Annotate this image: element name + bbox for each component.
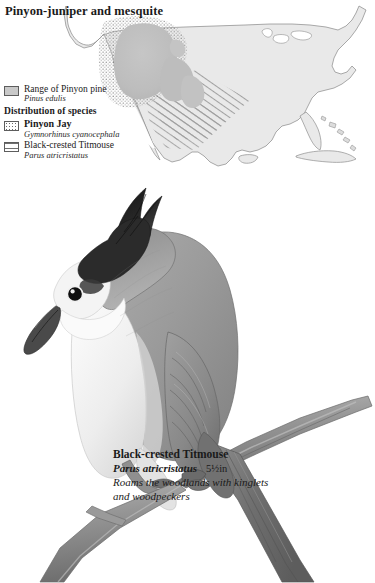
legend-item-pinyon-jay: Pinyon Jay Gymnorhinus cyanocephala	[4, 119, 144, 139]
hatch-swatch-icon	[4, 142, 19, 152]
legend-heading: Distribution of species	[4, 106, 144, 116]
solid-gray-swatch-icon	[4, 86, 19, 96]
page-title: Pinyon-juniper and mesquite	[5, 4, 163, 19]
caption-note: Roams the woodlands with kinglets and wo…	[113, 476, 278, 504]
black-crested-titmouse-illustration	[0, 182, 375, 583]
caption-common-name: Black-crested Titmouse	[113, 448, 313, 462]
legend-item-scientific-name: Parus atricristatus	[24, 151, 114, 160]
stipple-swatch-icon	[4, 121, 19, 131]
legend-item-pinyon-pine: Range of Pinyon pine Pinus edulis	[4, 84, 144, 103]
species-caption: Black-crested Titmouse Parus atricristat…	[113, 448, 313, 504]
legend-item-black-crested-titmouse: Black-crested Titmouse Parus atricristat…	[4, 140, 144, 159]
caption-scientific-name: Parus atricristatus	[113, 462, 197, 475]
legend-item-scientific-name: Pinus edulis	[24, 94, 107, 103]
eye	[67, 286, 82, 301]
map-legend: Range of Pinyon pine Pinus edulis Distri…	[4, 84, 144, 161]
legend-item-scientific-name: Gymnorhinus cyanocephala	[24, 130, 119, 139]
bird-illustration-panel	[0, 182, 375, 583]
caption-size: 5½in	[206, 463, 227, 476]
